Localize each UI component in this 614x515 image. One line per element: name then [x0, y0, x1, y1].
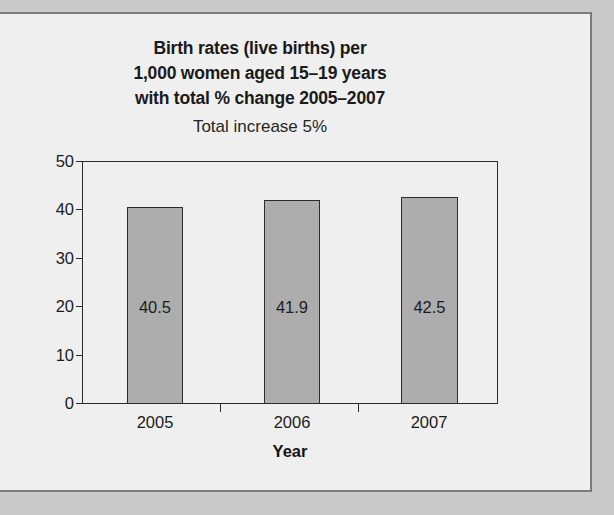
x-tick-label-2007: 2007 [384, 413, 474, 432]
chart-subtitle: Total increase 5% [0, 117, 520, 137]
y-tick-label-0: 0 [30, 395, 74, 411]
y-tick-label-10: 10 [30, 347, 74, 363]
x-axis-title: Year [82, 442, 498, 461]
bars-layer: 40.5 41.9 42.5 [82, 161, 498, 404]
chart-title: Birth rates (live births) per 1,000 wome… [0, 36, 520, 111]
chart-title-line-2: 1,000 women aged 15–19 years [0, 61, 520, 86]
bar-chart-figure: Birth rates (live births) per 1,000 wome… [0, 14, 590, 490]
x-tick-mark-1 [220, 404, 221, 412]
bar-value-2007: 42.5 [402, 298, 457, 317]
y-tick-label-50: 50 [30, 153, 74, 169]
bar-2006[interactable]: 41.9 [264, 200, 320, 404]
x-tick-label-2006: 2006 [247, 413, 337, 432]
chart-title-line-1: Birth rates (live births) per [0, 36, 520, 61]
bar-value-2005: 40.5 [128, 298, 182, 317]
y-tick-label-30: 30 [30, 250, 74, 266]
bar-value-2006: 41.9 [265, 298, 319, 317]
y-tick-label-40: 40 [30, 201, 74, 217]
figure-sheet: Birth rates (live births) per 1,000 wome… [0, 12, 592, 492]
bar-2007[interactable]: 42.5 [401, 197, 458, 404]
x-tick-label-2005: 2005 [110, 413, 200, 432]
page-canvas: Birth rates (live births) per 1,000 wome… [0, 0, 614, 515]
y-tick-label-20: 20 [30, 298, 74, 314]
x-tick-mark-2 [358, 404, 359, 412]
chart-title-line-3: with total % change 2005–2007 [0, 86, 520, 111]
bar-2005[interactable]: 40.5 [127, 207, 183, 404]
